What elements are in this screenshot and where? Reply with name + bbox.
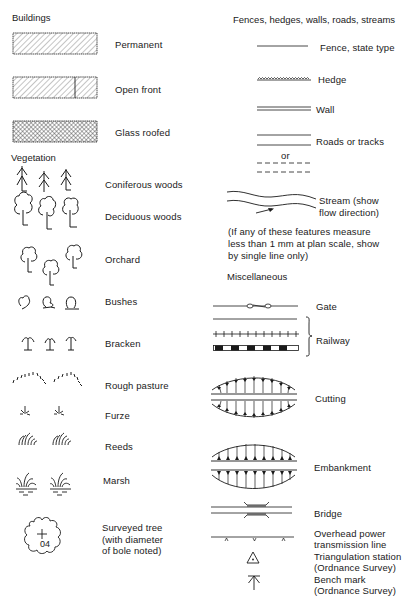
miscellaneous-heading: Miscellaneous: [227, 271, 287, 282]
wall-line-symbol: [257, 106, 313, 111]
rough-pasture-icon: [10, 370, 85, 388]
furze-label: Furze: [105, 410, 130, 421]
bushes-icon: [18, 294, 86, 312]
bushes-label: Bushes: [105, 296, 137, 307]
hedge-line-symbol: [257, 75, 313, 81]
triangulation-station-icon: [246, 551, 260, 564]
reeds-label: Reeds: [105, 441, 133, 452]
hedge-label: Hedge: [318, 74, 347, 85]
glass-roofed-building-symbol: [12, 120, 100, 144]
orchard-label: Orchard: [105, 254, 140, 265]
reeds-icon: [16, 431, 76, 447]
orchard-trees-icon: [18, 244, 88, 288]
glass-roofed-label: Glass roofed: [115, 127, 170, 138]
tree-diameter-value: 04: [40, 539, 50, 549]
roads-or-label: or: [281, 150, 290, 161]
stream-label: Stream (show flow direction): [319, 195, 379, 218]
fence-line-symbol: [257, 44, 309, 48]
coniferous-woods-label: Coniferous woods: [105, 179, 183, 190]
coniferous-trees-icon: [14, 165, 84, 193]
roads-label: Roads or tracks: [316, 136, 384, 147]
railway-symbols: [213, 317, 313, 359]
buildings-heading: Buildings: [12, 12, 51, 23]
furze-icon: [16, 404, 76, 418]
bracken-icon: [18, 336, 86, 354]
marsh-label: Marsh: [103, 475, 130, 486]
vegetation-heading: Vegetation: [11, 152, 56, 163]
open-front-label: Open front: [115, 84, 161, 95]
open-front-building-symbol: [12, 76, 100, 100]
power-line-symbol: [211, 534, 295, 544]
permanent-label: Permanent: [115, 39, 162, 50]
bridge-symbol: [211, 501, 293, 519]
bracken-label: Bracken: [105, 338, 141, 349]
marsh-icon: [14, 470, 76, 498]
roads-solid-lines-symbol: [257, 134, 313, 146]
deciduous-woods-label: Deciduous woods: [105, 211, 182, 222]
fences-heading: Fences, hedges, walls, roads, streams: [233, 14, 395, 25]
embankment-symbol: [211, 442, 297, 492]
railway-label: Railway: [316, 335, 350, 346]
roads-dashed-lines-symbol: [257, 162, 313, 174]
permanent-building-symbol: [12, 32, 100, 56]
deciduous-trees-icon: [12, 190, 84, 232]
triangulation-label: Triangulation station (Ordnance Survey): [314, 551, 401, 573]
bridge-label: Bridge: [314, 508, 342, 519]
rough-pasture-label: Rough pasture: [105, 380, 169, 391]
wall-label: Wall: [316, 104, 335, 115]
gate-label: Gate: [316, 301, 337, 312]
fences-note: (If any of these features measure less t…: [228, 226, 379, 261]
surveyed-tree-icon: 04: [22, 516, 68, 558]
fence-label: Fence, state type: [320, 42, 395, 53]
surveyed-tree-label: Surveyed tree (with diameter of bole not…: [102, 522, 163, 557]
gate-symbol: [213, 302, 299, 310]
stream-symbol: [226, 189, 318, 215]
bench-mark-label: Bench mark (Ordnance Survey): [314, 574, 396, 596]
bench-mark-icon: [247, 575, 261, 591]
cutting-symbol: [211, 374, 297, 422]
embankment-label: Embankment: [314, 462, 371, 473]
cutting-label: Cutting: [315, 393, 346, 404]
power-line-label: Overhead power transmission line: [314, 528, 386, 550]
